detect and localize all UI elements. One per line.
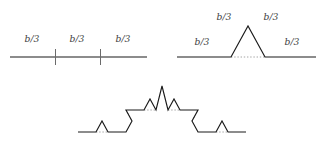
figure-canvas: b/3 b/3 b/3 b/3 b/3 b/3 b/3 <box>0 0 324 147</box>
panel-generator: b/3 b/3 b/3 b/3 <box>177 11 316 57</box>
panel2-label-upper-right-third: b/3 <box>263 11 278 22</box>
panel-second-iteration <box>78 86 246 132</box>
panel1-label-third-3: b/3 <box>115 33 130 44</box>
panel3-koch-path <box>78 86 246 132</box>
koch-construction-figure: b/3 b/3 b/3 b/3 b/3 b/3 b/3 <box>0 0 324 147</box>
panel2-label-upper-left-third: b/3 <box>216 11 231 22</box>
panel-divided-segment: b/3 b/3 b/3 <box>10 33 147 65</box>
panel1-label-third-2: b/3 <box>69 33 84 44</box>
panel2-label-left-third: b/3 <box>194 36 209 47</box>
panel2-label-right-third: b/3 <box>284 36 299 47</box>
panel1-label-third-1: b/3 <box>24 33 39 44</box>
